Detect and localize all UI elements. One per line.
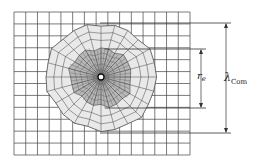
lambda-symbol: λ <box>224 71 231 84</box>
re-subscript: e <box>202 75 206 83</box>
mesh-diagram <box>0 0 256 161</box>
lambda-com-label: λCom <box>224 71 247 86</box>
lambda-subscript: Com <box>231 78 247 86</box>
re-label: re <box>197 70 206 83</box>
